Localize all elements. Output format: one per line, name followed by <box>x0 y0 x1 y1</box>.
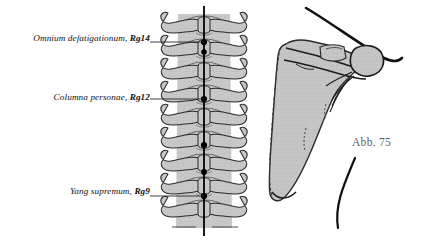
figure-caption: Abb. 75 <box>352 136 391 148</box>
vertebral-column-illustration <box>161 6 247 236</box>
label-rg9-text: Yang supremum, <box>70 186 132 196</box>
point-unlabeled-1 <box>201 49 207 55</box>
label-rg14-text: Omnium defatigationum, <box>33 33 127 43</box>
point-unlabeled-2 <box>201 142 207 148</box>
humeral-head <box>350 46 383 77</box>
label-rg9: Yang supremum, Rg9 <box>8 186 150 196</box>
scapula-illustration <box>269 8 402 228</box>
label-rg14: Omnium defatigationum, Rg14 <box>8 33 150 43</box>
label-rg12: Columna personae, Rg12 <box>8 92 150 102</box>
label-rg9-code: Rg9 <box>134 186 150 196</box>
rib-contour <box>337 158 355 228</box>
label-rg12-text: Columna personae, <box>54 92 128 102</box>
label-rg12-code: Rg12 <box>130 92 150 102</box>
point-unlabeled-3 <box>201 169 207 175</box>
label-rg14-code: Rg14 <box>130 33 150 43</box>
